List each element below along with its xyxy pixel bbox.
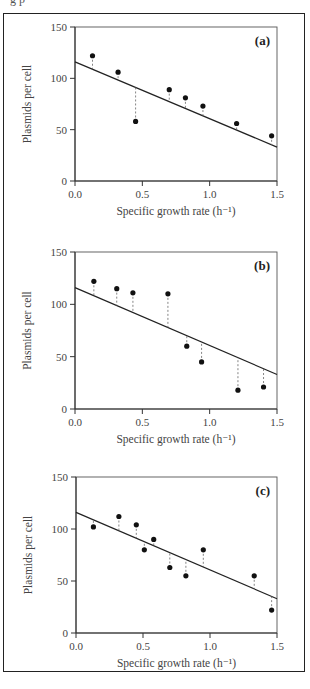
y-tick-label: 0 bbox=[63, 627, 69, 639]
regression-line bbox=[76, 512, 277, 598]
y-tick-label: 100 bbox=[51, 72, 68, 84]
data-point bbox=[142, 547, 147, 552]
x-tick-label: 1.0 bbox=[203, 416, 217, 428]
y-tick-label: 50 bbox=[57, 575, 69, 587]
data-point bbox=[130, 290, 135, 295]
data-point bbox=[252, 573, 257, 578]
data-point bbox=[91, 279, 96, 284]
y-tick-label: 0 bbox=[62, 403, 68, 415]
data-point bbox=[116, 514, 121, 519]
data-point bbox=[261, 384, 266, 389]
data-point bbox=[200, 103, 205, 108]
y-tick-label: 50 bbox=[56, 351, 68, 363]
data-point bbox=[114, 286, 119, 291]
x-axis-label: Specific growth rate (h⁻¹) bbox=[116, 433, 235, 446]
data-point bbox=[115, 70, 120, 75]
y-tick-label: 100 bbox=[51, 298, 68, 310]
data-point bbox=[183, 573, 188, 578]
x-tick-label: 0.5 bbox=[135, 188, 149, 200]
data-point bbox=[167, 565, 172, 570]
y-tick-label: 150 bbox=[51, 21, 68, 33]
data-point bbox=[91, 524, 96, 529]
figure-panels: 0501001500.00.51.01.5Specific growth rat… bbox=[0, 0, 310, 689]
y-tick-label: 150 bbox=[52, 471, 69, 483]
x-axis-label: Specific growth rate (h⁻¹) bbox=[116, 205, 235, 218]
x-tick-label: 0.0 bbox=[68, 188, 82, 200]
chart-panel-a: 0501001500.00.51.01.5Specific growth rat… bbox=[21, 21, 284, 218]
x-tick-label: 1.0 bbox=[203, 640, 217, 652]
data-point bbox=[269, 608, 274, 613]
data-point bbox=[134, 522, 139, 527]
data-point bbox=[183, 95, 188, 100]
data-point bbox=[269, 133, 274, 138]
y-axis-label: Plasmids per cell bbox=[21, 291, 34, 370]
x-tick-label: 0.0 bbox=[68, 416, 82, 428]
data-point bbox=[184, 344, 189, 349]
x-tick-label: 1.0 bbox=[203, 188, 217, 200]
chart-panel-b: 0501001500.00.51.01.5Specific growth rat… bbox=[21, 246, 284, 446]
regression-line bbox=[75, 62, 277, 147]
x-tick-label: 0.5 bbox=[136, 640, 150, 652]
y-tick-label: 100 bbox=[52, 523, 69, 535]
data-point bbox=[167, 87, 172, 92]
y-tick-label: 50 bbox=[56, 124, 68, 136]
regression-line bbox=[75, 288, 277, 375]
x-tick-label: 1.5 bbox=[270, 416, 284, 428]
data-point bbox=[90, 53, 95, 58]
data-point bbox=[133, 119, 138, 124]
data-point bbox=[151, 537, 156, 542]
x-tick-label: 0.5 bbox=[135, 416, 149, 428]
y-axis-label: Plasmids per cell bbox=[22, 516, 35, 595]
chart-panel-c: 0501001500.00.51.01.5Specific growth rat… bbox=[22, 471, 284, 670]
y-tick-label: 150 bbox=[51, 246, 68, 258]
x-tick-label: 1.5 bbox=[270, 640, 284, 652]
data-point bbox=[234, 121, 239, 126]
x-axis-label: Specific growth rate (h⁻¹) bbox=[117, 657, 236, 670]
data-point bbox=[201, 547, 206, 552]
y-axis-label: Plasmids per cell bbox=[21, 65, 34, 144]
data-point bbox=[165, 291, 170, 296]
panel-label: (c) bbox=[256, 483, 270, 498]
x-tick-label: 0.0 bbox=[69, 640, 83, 652]
y-tick-label: 0 bbox=[62, 175, 68, 187]
data-point bbox=[235, 388, 240, 393]
panel-label: (b) bbox=[254, 258, 270, 273]
x-tick-label: 1.5 bbox=[270, 188, 284, 200]
panel-label: (a) bbox=[255, 33, 270, 48]
data-point bbox=[199, 359, 204, 364]
